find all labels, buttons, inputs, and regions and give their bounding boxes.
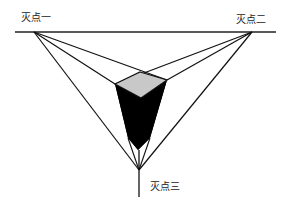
vanishing-point-2-label: 灭点二 xyxy=(236,14,266,26)
vanishing-point-3-label: 灭点三 xyxy=(150,181,180,193)
perspective-diagram xyxy=(0,0,290,214)
vanishing-point-1-label: 灭点一 xyxy=(21,12,51,24)
